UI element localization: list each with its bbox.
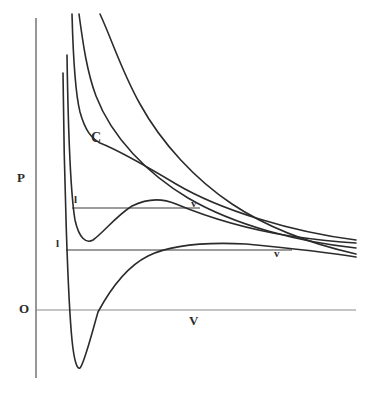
isotherm-subcritical-upper: [67, 55, 356, 243]
volume-axis-label: V: [189, 313, 198, 329]
origin-label: O: [19, 301, 29, 317]
isotherm-subcritical-lower: [63, 73, 356, 368]
isotherm-plot: [0, 0, 368, 395]
liquid-label-lower: l: [56, 237, 59, 249]
isotherm-supercritical-upper: [79, 14, 356, 248]
liquid-label-upper: l: [74, 193, 77, 205]
vapour-label-lower: v: [274, 247, 280, 259]
figure-canvas: P O V C l v l v: [0, 0, 368, 395]
pressure-axis-label: P: [17, 170, 25, 186]
critical-point-label: C: [91, 130, 101, 146]
vapour-label-upper: v: [191, 197, 197, 209]
